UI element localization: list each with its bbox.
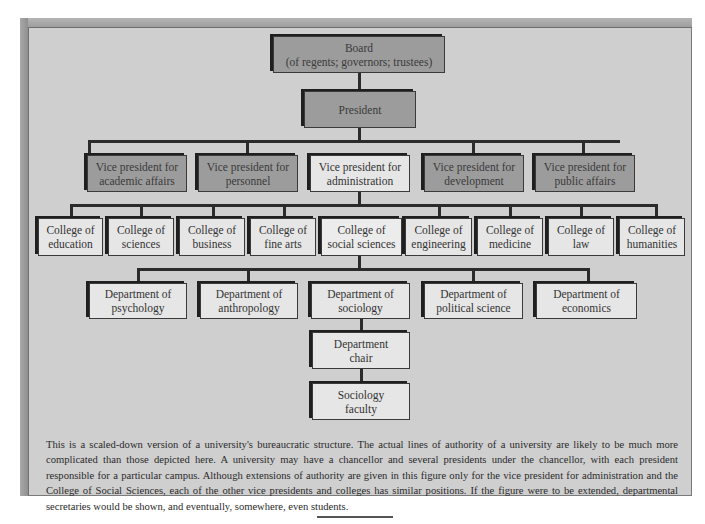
vp-label-line1: Vice president for [544,160,626,174]
connector-col3-drop [212,204,215,218]
node-sociology-faculty: Sociologyfaculty [312,383,410,420]
dept-label-line2: psychology [105,301,172,315]
frame-bevel-top [20,18,692,27]
chair-label-line2: chair [334,351,388,365]
node-president: President [304,91,416,128]
node-vp-development: Vice president fordevelopment [424,155,524,192]
college-label-line2: business [188,237,236,251]
node-college-law: College oflaw [548,218,614,256]
college-label-line1: College of [259,223,307,237]
node-college-education: College ofeducation [38,218,103,256]
vp-label-line1: Vice president for [433,160,515,174]
connector-col9-drop [655,204,658,218]
faculty-label-line1: Sociology [338,388,385,402]
node-dept-psychology: Department ofpsychology [89,283,187,319]
connector-college-bus [70,204,658,207]
node-college-engineering: College ofengineering [405,218,472,256]
node-college-fine-arts: College offine arts [250,218,316,256]
connector-col4-drop [283,204,286,218]
connector-col1-drop [70,204,73,218]
college-label-line1: College of [46,223,94,237]
dept-label-line2: sociology [327,301,394,315]
node-dept-political-science: Department ofpolitical science [424,283,523,319]
vp-label-line2: public affairs [544,174,626,188]
node-board-line1: Board [286,41,433,55]
college-label-line2: engineering [411,237,465,251]
dept-label-line2: economics [553,301,620,315]
college-label-line1: College of [327,223,395,237]
node-college-sciences: College ofsciences [108,218,174,256]
connector-vp-bus [88,140,620,143]
connector-vp2-drop [246,140,249,155]
node-board-line2: (of regents; governors; trustees) [286,55,433,69]
node-dept-economics: Department ofeconomics [536,283,637,319]
college-label-line2: education [46,237,94,251]
college-label-line1: College of [117,223,165,237]
node-vp-personnel: Vice president forpersonnel [198,155,298,192]
connector-dept2-drop [247,268,250,282]
vp-label-line2: development [433,174,515,188]
vp-label-line2: academic affairs [96,174,178,188]
connector-dept-bus [137,268,589,271]
college-label-line2: medicine [486,237,534,251]
college-label-line2: law [557,237,605,251]
dept-label-line1: Department of [436,287,510,301]
college-label-line2: fine arts [259,237,307,251]
vp-label-line2: personnel [207,174,289,188]
dept-label-line1: Department of [105,287,172,301]
node-board: Board (of regents; governors; trustees) [273,36,445,73]
college-label-line1: College of [557,223,605,237]
vp-label-line1: Vice president for [319,160,401,174]
node-college-humanities: College ofhumanities [619,218,685,256]
college-label-line2: social sciences [327,237,395,251]
faculty-label-line2: faculty [338,402,385,416]
figure-caption: This is a scaled-down version of a unive… [46,437,678,514]
connector-vp5-drop [582,140,585,155]
connector-col6-drop [438,204,441,218]
vp-label-line2: administration [319,174,401,188]
dept-label-line2: anthropology [216,301,283,315]
connector-dept1-drop [137,268,140,282]
node-vp-administration: Vice president foradministration [310,155,410,192]
dept-label-line1: Department of [327,287,394,301]
connector-president-vps [358,127,361,141]
dept-label-line1: Department of [553,287,620,301]
node-dept-anthropology: Department ofanthropology [200,283,298,319]
node-department-chair: Departmentchair [312,332,410,369]
connector-soc-chair [360,318,363,332]
node-college-social-sciences: College ofsocial sciences [321,218,402,256]
connector-board-president [358,72,361,91]
frame-bevel-left [20,18,28,496]
connector-vp1-drop [88,140,91,155]
page-tab-marker [317,516,393,524]
college-label-line1: College of [627,223,677,237]
node-college-medicine: College ofmedicine [477,218,543,256]
college-label-line2: humanities [627,237,677,251]
connector-col7-drop [509,204,512,218]
node-college-business: College ofbusiness [179,218,245,256]
college-label-line1: College of [188,223,236,237]
connector-dept4-drop [472,268,475,282]
node-vp-public-affairs: Vice president forpublic affairs [535,155,635,192]
connector-col2-drop [140,204,143,218]
node-vp-academic-affairs: Vice president foracademic affairs [87,155,187,192]
node-president-label: President [339,103,382,117]
college-label-line1: College of [411,223,465,237]
chair-label-line1: Department [334,337,388,351]
connector-chair-faculty [360,368,363,383]
connector-col8-drop [580,204,583,218]
connector-vp4-drop [472,140,475,155]
dept-label-line2: political science [436,301,510,315]
college-label-line2: sciences [117,237,165,251]
vp-label-line1: Vice president for [207,160,289,174]
vp-label-line1: Vice president for [96,160,178,174]
node-dept-sociology: Department ofsociology [311,283,410,319]
college-label-line1: College of [486,223,534,237]
dept-label-line1: Department of [216,287,283,301]
connector-dept5-drop [587,268,590,282]
